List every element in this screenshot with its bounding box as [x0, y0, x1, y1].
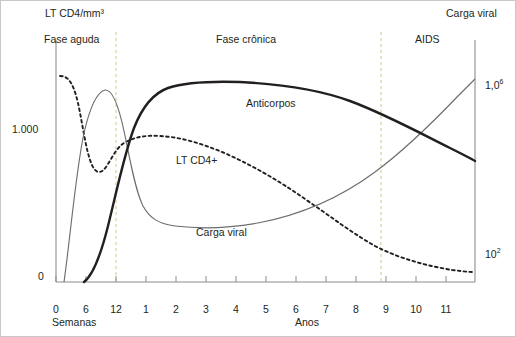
- left-axis-tick-0: 0: [38, 271, 44, 282]
- series-label-carga-viral: Carga viral: [196, 227, 247, 238]
- x-tick-label: 8: [353, 303, 359, 315]
- right-axis-title: Carga viral: [446, 8, 497, 19]
- left-axis-title: LT CD4/mm³: [45, 8, 104, 19]
- x-tick-label: 11: [441, 303, 452, 315]
- x-tick-label: 5: [263, 303, 269, 315]
- x-tick-label: 1: [143, 303, 149, 315]
- x-tick-label: 7: [323, 303, 329, 315]
- chart-plot-area: [0, 0, 516, 337]
- phase-label-aids: AIDS: [415, 34, 440, 45]
- series-carga-viral-curve: [64, 79, 475, 282]
- x-axis-ticks: [56, 276, 446, 282]
- x-tick-label: 4: [233, 303, 239, 315]
- x-axis-group-label-semanas: Semanas: [52, 317, 96, 328]
- right-axis-tick-top-exponent: 6: [500, 78, 504, 85]
- x-tick-label: 6: [293, 303, 299, 315]
- phase-label-chronic: Fase crônica: [216, 34, 276, 45]
- x-tick-label: 2: [173, 303, 179, 315]
- x-axis-group-label-anos: Anos: [295, 317, 319, 328]
- right-axis-tick-top: 1,06: [485, 78, 504, 90]
- phase-label-acute: Fase aguda: [44, 34, 99, 45]
- chart-canvas: LT CD4/mm³ Carga viral Fase aguda Fase c…: [0, 0, 516, 337]
- series-label-anticorpos: Anticorpos: [246, 98, 296, 109]
- x-tick-label: 3: [203, 303, 209, 315]
- x-tick-label: 10: [410, 303, 422, 315]
- x-tick-label: 6: [83, 303, 89, 315]
- x-tick-label: 12: [110, 303, 122, 315]
- series-label-lt-cd4: LT CD4+: [176, 155, 217, 166]
- x-tick-label: 0: [53, 303, 59, 315]
- x-tick-label: 9: [383, 303, 389, 315]
- right-axis-tick-bottom: 102: [485, 247, 501, 259]
- right-axis-tick-bottom-exponent: 2: [497, 247, 501, 254]
- left-axis-tick-1000: 1.000: [12, 124, 38, 135]
